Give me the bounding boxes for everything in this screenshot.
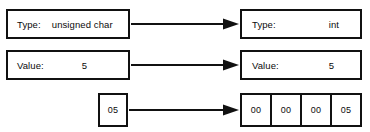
source-value-number: 5	[82, 60, 87, 71]
value-arrow-icon	[131, 59, 239, 71]
destination-type-value: int	[329, 19, 339, 30]
type-arrow-icon	[131, 18, 239, 30]
destination-byte-cell-2: 00	[311, 105, 321, 115]
destination-value-box: Value: 5	[240, 50, 362, 80]
destination-byte-cell: 05	[332, 95, 360, 125]
destination-byte-cell-0: 00	[251, 105, 261, 115]
source-value-box: Value: 5	[6, 50, 130, 80]
destination-byte-cell-3: 05	[341, 105, 351, 115]
destination-type-label: Type:	[252, 19, 276, 30]
source-type-box: Type: unsigned char	[6, 9, 130, 39]
destination-byte-cell: 00	[302, 95, 332, 125]
source-value-label: Value:	[17, 60, 44, 71]
destination-type-box: Type: int	[240, 9, 362, 39]
destination-byte-row: 00 00 00 05	[240, 93, 362, 127]
source-type-value: unsigned char	[52, 19, 113, 30]
destination-value-number: 5	[329, 60, 334, 71]
destination-byte-cell-1: 00	[281, 105, 291, 115]
source-byte-cell-0: 05	[108, 105, 118, 115]
destination-byte-cell: 00	[242, 95, 272, 125]
source-type-label: Type:	[17, 19, 41, 30]
bytes-arrow-icon	[129, 104, 239, 116]
source-byte-box: 05	[98, 93, 128, 127]
destination-value-label: Value:	[252, 60, 279, 71]
type-conversion-diagram: Type: unsigned char Value: 5 05 Type: in…	[0, 0, 370, 132]
destination-byte-cell: 00	[272, 95, 302, 125]
